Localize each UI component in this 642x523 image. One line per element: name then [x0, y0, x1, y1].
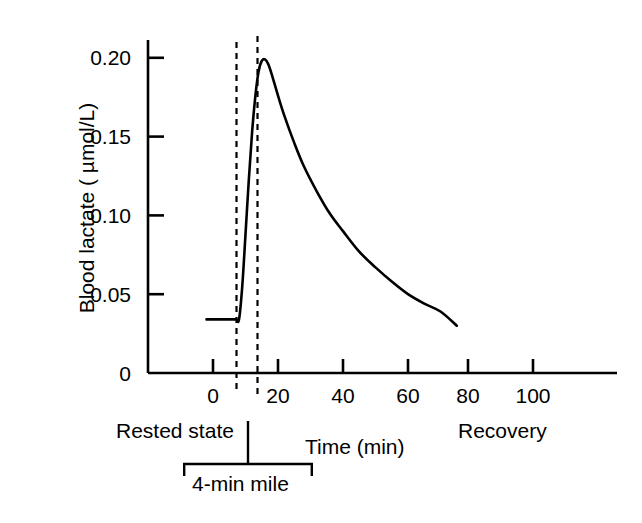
x-tick-label-20: 20 — [248, 385, 308, 406]
recovery-label: Recovery — [458, 420, 547, 441]
x-tick-label-100: 100 — [503, 385, 563, 406]
x-axis-title: Time (min) — [305, 436, 405, 457]
lactate-curve — [207, 59, 457, 326]
chart-figure: Blood lactate ( µmol/L) 0.20 0.15 0.10 0… — [0, 0, 642, 523]
bracket-label: 4-min mile — [192, 473, 289, 494]
x-tick-label-40: 40 — [313, 385, 373, 406]
y-tick-label-0.20: 0.20 — [41, 47, 131, 68]
x-tick-label-0: 0 — [183, 385, 243, 406]
y-tick-label-0.10: 0.10 — [41, 205, 131, 226]
x-axis-ticks — [213, 359, 533, 373]
y-axis-ticks — [148, 58, 164, 294]
y-tick-label-0.15: 0.15 — [41, 126, 131, 147]
rested-state-label: Rested state — [116, 420, 234, 441]
x-tick-label-60: 60 — [378, 385, 438, 406]
x-tick-label-80: 80 — [438, 385, 498, 406]
y-tick-label-0.05: 0.05 — [41, 284, 131, 305]
y-tick-label-0: 0 — [41, 363, 131, 384]
